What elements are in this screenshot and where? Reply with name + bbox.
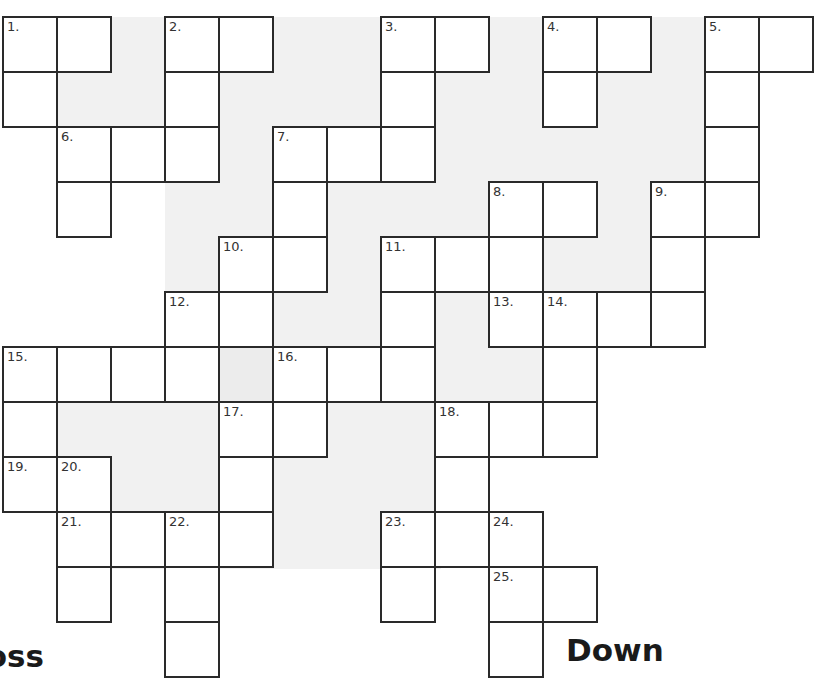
clue-number: 8. xyxy=(493,185,505,198)
crossword-cell[interactable] xyxy=(2,71,58,128)
crossword-cell[interactable] xyxy=(380,71,436,128)
crossword-cell-8[interactable]: 8. xyxy=(488,181,544,238)
crossword-cell[interactable] xyxy=(56,346,112,403)
clue-number: 19. xyxy=(7,460,28,473)
crossword-cell[interactable] xyxy=(380,291,436,348)
clue-number: 3. xyxy=(385,20,397,33)
crossword-cell[interactable] xyxy=(2,401,58,458)
down-clues-heading: Down xyxy=(566,635,664,666)
crossword-cell[interactable] xyxy=(110,346,166,403)
clue-number: 15. xyxy=(7,350,28,363)
crossword-cell-9[interactable]: 9. xyxy=(650,181,706,238)
clue-number: 4. xyxy=(547,20,559,33)
crossword-cell-14[interactable]: 14. xyxy=(542,291,598,348)
crossword-cell[interactable] xyxy=(542,401,598,458)
crossword-cell-17[interactable]: 17. xyxy=(218,401,274,458)
crossword-cell[interactable] xyxy=(704,181,760,238)
clue-number: 20. xyxy=(61,460,82,473)
clue-number: 7. xyxy=(277,130,289,143)
clue-number: 10. xyxy=(223,240,244,253)
crossword-cell-2[interactable]: 2. xyxy=(164,16,220,73)
clue-number: 9. xyxy=(655,185,667,198)
crossword-cell[interactable] xyxy=(218,511,274,568)
clue-number: 1. xyxy=(7,20,19,33)
clue-number: 24. xyxy=(493,515,514,528)
crossword-cell[interactable] xyxy=(650,236,706,293)
crossword-cell[interactable] xyxy=(164,126,220,183)
clue-number: 22. xyxy=(169,515,190,528)
crossword-cell[interactable] xyxy=(434,16,490,73)
clue-number: 25. xyxy=(493,570,514,583)
crossword-cell-22[interactable]: 22. xyxy=(164,511,220,568)
crossword-cell[interactable] xyxy=(434,456,490,513)
crossword-cell[interactable] xyxy=(326,346,382,403)
clue-number: 16. xyxy=(277,350,298,363)
clue-number: 14. xyxy=(547,295,568,308)
crossword-cell[interactable] xyxy=(488,401,544,458)
crossword-cell[interactable] xyxy=(164,566,220,623)
crossword-cell[interactable] xyxy=(218,456,274,513)
crossword-cell[interactable] xyxy=(56,181,112,238)
crossword-cell[interactable] xyxy=(380,126,436,183)
crossword-cell-12[interactable]: 12. xyxy=(164,291,220,348)
crossword-cell[interactable] xyxy=(56,566,112,623)
crossword-cell[interactable] xyxy=(272,401,328,458)
crossword-cell-5[interactable]: 5. xyxy=(704,16,760,73)
crossword-cell-4[interactable]: 4. xyxy=(542,16,598,73)
crossword-cell-24[interactable]: 24. xyxy=(488,511,544,568)
clue-number: 6. xyxy=(61,130,73,143)
crossword-cell[interactable] xyxy=(272,236,328,293)
crossword-cell[interactable] xyxy=(704,126,760,183)
crossword-cell[interactable] xyxy=(542,346,598,403)
crossword-cell[interactable] xyxy=(488,236,544,293)
crossword-cell[interactable] xyxy=(434,236,490,293)
crossword-cell-23[interactable]: 23. xyxy=(380,511,436,568)
crossword-cell[interactable] xyxy=(164,621,220,678)
crossword-cell-1[interactable]: 1. xyxy=(2,16,58,73)
crossword-cell-25[interactable]: 25. xyxy=(488,566,544,623)
clue-number: 5. xyxy=(709,20,721,33)
clue-number: 13. xyxy=(493,295,514,308)
crossword-cell[interactable] xyxy=(704,71,760,128)
crossword-cell[interactable] xyxy=(326,126,382,183)
crossword-cell-15[interactable]: 15. xyxy=(2,346,58,403)
crossword-cell[interactable] xyxy=(56,16,112,73)
crossword-cell[interactable] xyxy=(596,16,652,73)
crossword-cell[interactable] xyxy=(218,346,274,403)
crossword-cell-19[interactable]: 19. xyxy=(2,456,58,513)
crossword-cell[interactable] xyxy=(164,71,220,128)
crossword-cell[interactable] xyxy=(110,511,166,568)
crossword-cell[interactable] xyxy=(164,346,220,403)
clue-number: 23. xyxy=(385,515,406,528)
crossword-cell[interactable] xyxy=(110,126,166,183)
crossword-cell-13[interactable]: 13. xyxy=(488,291,544,348)
crossword-cell[interactable] xyxy=(434,511,490,568)
clue-number: 12. xyxy=(169,295,190,308)
crossword-cell[interactable] xyxy=(380,566,436,623)
crossword-cell[interactable] xyxy=(596,291,652,348)
crossword-cell-11[interactable]: 11. xyxy=(380,236,436,293)
crossword-cell[interactable] xyxy=(650,291,706,348)
crossword-cell-18[interactable]: 18. xyxy=(434,401,490,458)
crossword-cell-20[interactable]: 20. xyxy=(56,456,112,513)
crossword-cell[interactable] xyxy=(380,346,436,403)
crossword-cell-6[interactable]: 6. xyxy=(56,126,112,183)
clue-number: 2. xyxy=(169,20,181,33)
crossword-cell[interactable] xyxy=(758,16,814,73)
crossword-cell[interactable] xyxy=(272,181,328,238)
crossword-cell-21[interactable]: 21. xyxy=(56,511,112,568)
crossword-cell[interactable] xyxy=(218,291,274,348)
crossword-cell[interactable] xyxy=(542,71,598,128)
clue-number: 17. xyxy=(223,405,244,418)
crossword-cell[interactable] xyxy=(542,566,598,623)
crossword-cell-3[interactable]: 3. xyxy=(380,16,436,73)
crossword-cell[interactable] xyxy=(488,621,544,678)
crossword-cell-16[interactable]: 16. xyxy=(272,346,328,403)
clue-number: 11. xyxy=(385,240,406,253)
crossword-cell[interactable] xyxy=(542,181,598,238)
crossword-cell-10[interactable]: 10. xyxy=(218,236,274,293)
crossword-cell[interactable] xyxy=(218,16,274,73)
clue-number: 21. xyxy=(61,515,82,528)
crossword-cell-7[interactable]: 7. xyxy=(272,126,328,183)
